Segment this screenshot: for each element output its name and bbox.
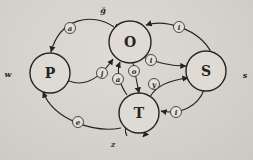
- self-loop-label-T: z: [110, 139, 116, 149]
- self-loop-label-O: ğ: [100, 5, 106, 15]
- edge-symbol-O-S: i: [150, 56, 153, 65]
- scanned-figure-page: PwOğSsTzajiioayie: [0, 0, 253, 160]
- state-label-P: P: [45, 65, 56, 81]
- state-diagram: PwOğSsTzajiioayie: [0, 0, 253, 160]
- self-loop-label-P: w: [5, 69, 13, 79]
- self-loop-label-S: s: [243, 70, 248, 80]
- state-label-T: T: [134, 105, 145, 121]
- edge-S-T: [161, 90, 204, 112]
- edge-symbol-S-O: i: [178, 23, 181, 32]
- edge-O-P: [51, 19, 114, 52]
- edge-symbol-T-O: a: [116, 75, 121, 84]
- state-label-O: O: [124, 34, 136, 50]
- edge-symbol-O-P: a: [68, 24, 73, 33]
- edge-symbol-S-T: i: [175, 108, 178, 117]
- edge-symbol-T-P: e: [76, 118, 81, 127]
- edge-symbol-O-T: o: [132, 67, 137, 76]
- state-label-S: S: [201, 63, 211, 79]
